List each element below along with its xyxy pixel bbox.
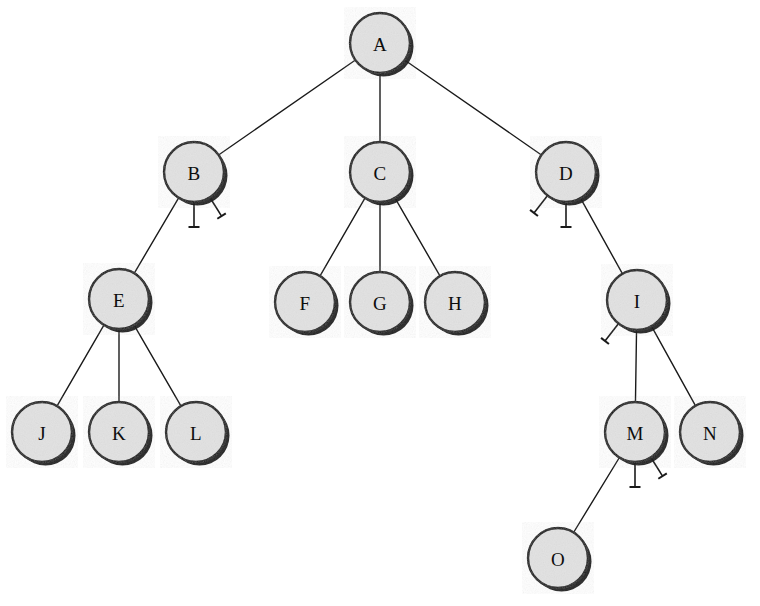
- tree-node-k[interactable]: K: [89, 402, 153, 466]
- node-layer: ABCDEFGHIJKLMNO: [12, 13, 744, 592]
- tree-node-i[interactable]: I: [607, 270, 671, 334]
- tree-node-label-n: N: [703, 423, 717, 444]
- tree-node-l[interactable]: L: [166, 402, 230, 466]
- tree-edge-i-n: [651, 325, 696, 406]
- tree-node-label-f: F: [300, 293, 311, 314]
- tree-edge-a-b: [218, 60, 356, 156]
- tree-node-label-l: L: [190, 423, 202, 444]
- tree-edge-m-o: [573, 457, 620, 534]
- tree-node-label-m: M: [626, 423, 643, 444]
- tree-edge-e-j: [57, 324, 105, 407]
- tree-node-label-c: C: [374, 163, 387, 184]
- tree-node-h[interactable]: H: [425, 272, 489, 336]
- tree-node-label-g: G: [373, 293, 387, 314]
- tree-node-label-i: I: [634, 291, 641, 312]
- tree-edge-i-m: [635, 329, 636, 403]
- tree-node-label-o: O: [551, 549, 565, 570]
- tree-edge-c-f: [319, 197, 365, 277]
- tree-edge-c-h: [394, 197, 440, 277]
- tree-node-label-d: D: [559, 163, 573, 184]
- tree-node-n[interactable]: N: [680, 402, 744, 466]
- tree-edge-e-l: [134, 324, 182, 407]
- tree-edge-b-e: [134, 197, 180, 274]
- tree-edge-d-i: [580, 197, 623, 274]
- tree-node-o[interactable]: O: [528, 528, 592, 592]
- tree-node-a[interactable]: A: [350, 13, 414, 77]
- tree-node-label-k: K: [112, 423, 126, 444]
- tree-node-m[interactable]: M: [605, 402, 669, 466]
- tree-node-e[interactable]: E: [89, 269, 153, 333]
- null-marker-layer: [189, 194, 667, 487]
- tree-node-label-b: B: [188, 163, 201, 184]
- tree-diagram: ABCDEFGHIJKLMNO: [0, 0, 760, 606]
- tree-node-d[interactable]: D: [536, 142, 600, 206]
- null-child-marker-i-4: [601, 322, 620, 344]
- tree-node-label-h: H: [448, 293, 462, 314]
- tree-node-label-a: A: [373, 34, 387, 55]
- tree-node-b[interactable]: B: [164, 142, 228, 206]
- tree-node-g[interactable]: G: [350, 272, 414, 336]
- tree-edge-a-d: [404, 60, 542, 156]
- null-child-marker-d-2: [530, 194, 549, 216]
- tree-node-label-e: E: [113, 290, 125, 311]
- tree-node-label-j: J: [38, 423, 46, 444]
- tree-diagram-canvas: ABCDEFGHIJKLMNO: [0, 0, 760, 606]
- tree-node-f[interactable]: F: [275, 272, 339, 336]
- tree-node-j[interactable]: J: [12, 402, 76, 466]
- tree-node-c[interactable]: C: [350, 142, 414, 206]
